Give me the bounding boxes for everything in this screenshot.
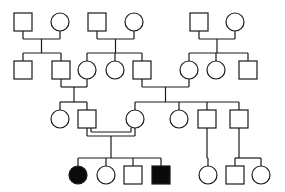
unaffected-male-i-1 xyxy=(14,13,32,31)
unaffected-female-iv-7 xyxy=(252,166,270,184)
pedigree-lines xyxy=(23,31,261,166)
unaffected-female-ii-4 xyxy=(106,61,124,79)
unaffected-female-ii-7 xyxy=(207,61,225,79)
unaffected-female-iv-2 xyxy=(97,166,115,184)
unaffected-male-iv-3 xyxy=(124,166,142,184)
unaffected-female-i-6 xyxy=(226,13,244,31)
unaffected-male-iv-6 xyxy=(226,166,244,184)
unaffected-female-i-2 xyxy=(51,13,69,31)
unaffected-male-iii-5 xyxy=(198,110,216,128)
unaffected-male-ii-2 xyxy=(52,61,70,79)
unaffected-male-iii-2 xyxy=(78,110,96,128)
unaffected-female-iii-3 xyxy=(126,110,144,128)
unaffected-female-ii-3 xyxy=(78,61,96,79)
unaffected-male-ii-5 xyxy=(133,61,151,79)
unaffected-male-iii-6 xyxy=(230,110,248,128)
unaffected-female-iv-5 xyxy=(199,166,217,184)
unaffected-male-ii-1 xyxy=(14,61,32,79)
affected-male-iv-4 xyxy=(152,166,170,184)
affected-female-iv-1 xyxy=(69,166,87,184)
unaffected-female-iii-1 xyxy=(51,110,69,128)
unaffected-male-i-3 xyxy=(88,13,106,31)
unaffected-female-ii-6 xyxy=(180,61,198,79)
unaffected-female-i-4 xyxy=(125,13,143,31)
unaffected-female-iii-4 xyxy=(170,110,188,128)
pedigree-chart xyxy=(0,0,285,192)
unaffected-male-ii-8 xyxy=(239,61,257,79)
unaffected-male-i-5 xyxy=(190,13,208,31)
